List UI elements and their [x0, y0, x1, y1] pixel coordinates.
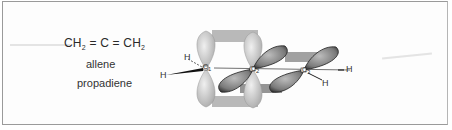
h-left-label: H [160, 70, 167, 80]
c2-subscript: 2 [256, 68, 259, 74]
h-bottom-right-label: H [322, 78, 329, 88]
c3-subscript: 3 [307, 69, 310, 75]
orbital-diagram [0, 0, 452, 130]
c1-h-wedge-bond [166, 68, 203, 75]
h-top-left-label: H [184, 52, 191, 62]
c1-label: C1 [203, 63, 211, 72]
c1-subscript: 1 [208, 66, 211, 72]
c2-label: C2 [251, 65, 259, 74]
c3-p-orbital-lower-left [270, 70, 304, 92]
c1-p-orbital-bottom [197, 69, 215, 107]
sigma-axis [214, 68, 350, 70]
c3-label: C3 [302, 66, 310, 75]
h-right-label: H [346, 64, 353, 74]
